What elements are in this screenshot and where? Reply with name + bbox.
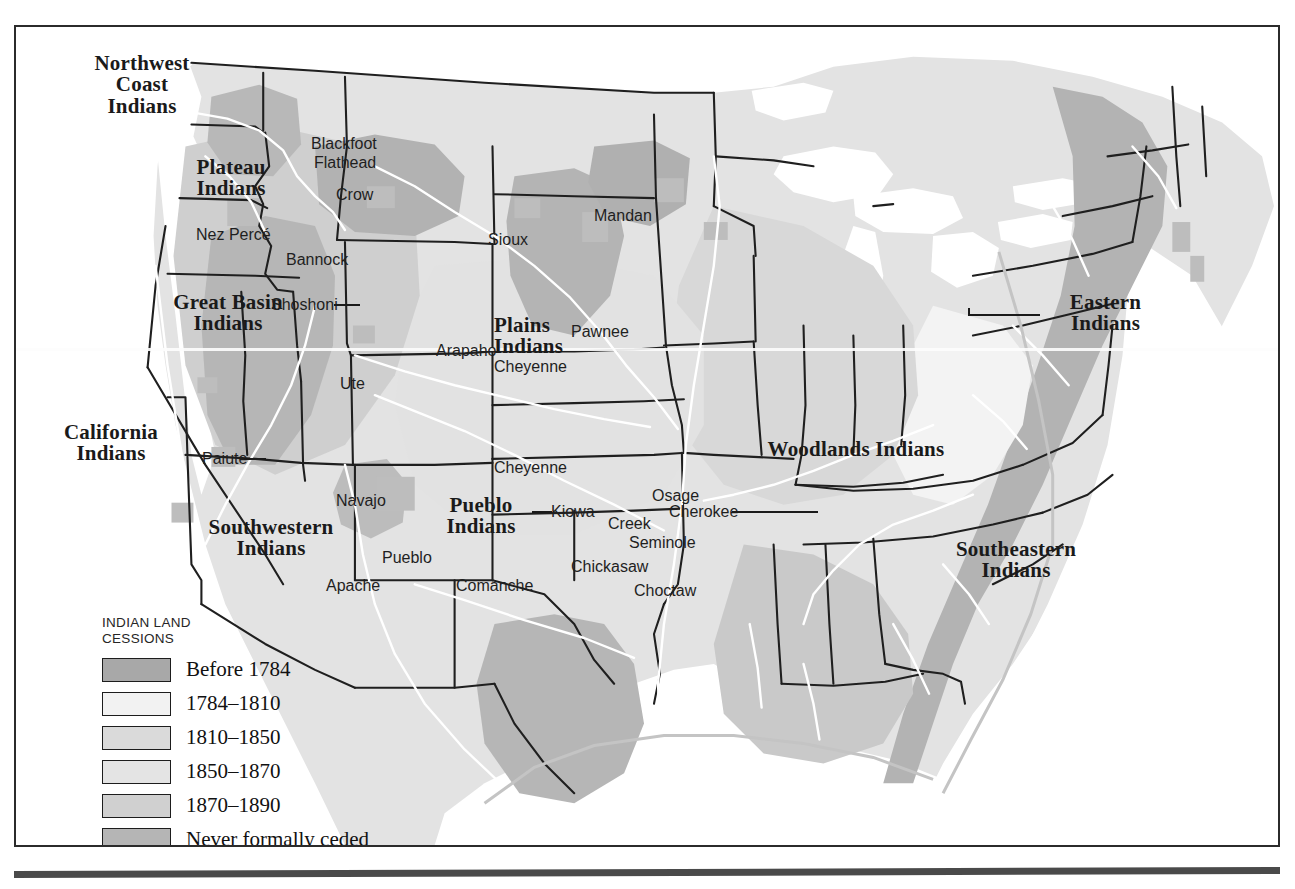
legend-label-1870-1890: 1870–1890 (186, 793, 281, 818)
legend-row: Before 1784 (102, 653, 362, 687)
legend-row: 1870–1890 (102, 789, 362, 823)
legend-swatch-never-ceded (102, 828, 171, 847)
leader-kiowa (532, 511, 552, 513)
legend-swatch-1850-1870 (102, 760, 171, 784)
legend-label-never-ceded: Never formally ceded (186, 827, 369, 847)
legend-label-before-1784: Before 1784 (186, 657, 290, 682)
legend-swatch-1784-1810 (102, 692, 171, 716)
legend-label-1784-1810: 1784–1810 (186, 691, 281, 716)
leader-eastern-indians (968, 314, 1040, 316)
map-legend: INDIAN LAND CESSIONS Before 1784 1784–18… (102, 615, 362, 847)
bottom-rule (14, 867, 1280, 878)
leader-cherokee (732, 511, 818, 513)
legend-swatch-before-1784 (102, 658, 171, 682)
legend-swatch-1870-1890 (102, 794, 171, 818)
page-text-artifact: , , , , ,, (0, 0, 1295, 14)
legend-label-1810-1850: 1810–1850 (186, 725, 281, 750)
figure-page: , , , , ,, (0, 0, 1295, 889)
legend-row: 1784–1810 (102, 687, 362, 721)
legend-title: INDIAN LAND CESSIONS (102, 615, 362, 647)
map-frame: Northwest Coast Indians Plateau Indians … (14, 25, 1280, 847)
legend-row: 1850–1870 (102, 755, 362, 789)
legend-label-1850-1870: 1850–1870 (186, 759, 281, 784)
legend-row: 1810–1850 (102, 721, 362, 755)
leader-shoshoni (334, 304, 360, 306)
leader-paiute (244, 458, 266, 460)
legend-swatch-1810-1850 (102, 726, 171, 750)
legend-row: Never formally ceded (102, 823, 362, 847)
leader-eastern-indians-tick (968, 308, 970, 316)
